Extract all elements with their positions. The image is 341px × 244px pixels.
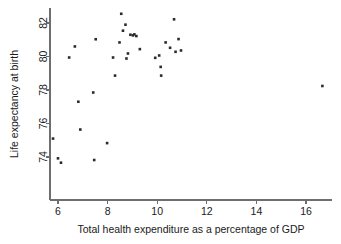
data-point	[68, 56, 71, 59]
data-point	[139, 48, 142, 51]
x-axis-title: Total health expenditure as a percentage…	[77, 223, 304, 235]
data-point	[74, 45, 77, 48]
data-point	[160, 74, 163, 77]
data-point	[94, 38, 97, 41]
y-tick-label-82: 82	[37, 17, 49, 29]
data-point	[173, 18, 176, 21]
y-axis-title: Life expectancy at birth	[8, 50, 20, 158]
data-point	[114, 74, 117, 77]
data-point	[158, 54, 161, 57]
data-point	[79, 128, 82, 131]
data-point	[112, 56, 115, 59]
data-point	[177, 38, 180, 41]
data-point	[125, 57, 128, 60]
chart-canvas: 74767880826810121416 Total health expend…	[0, 0, 341, 244]
scatter-plot-figure: 74767880826810121416 Total health expend…	[0, 0, 341, 244]
axes	[50, 8, 332, 200]
data-point	[106, 142, 109, 145]
data-point	[57, 157, 60, 160]
data-point	[118, 41, 121, 44]
x-tick-label-8: 8	[105, 205, 111, 217]
data-point	[122, 29, 125, 32]
data-point	[52, 137, 55, 140]
x-tick-label-12: 12	[201, 205, 213, 217]
data-point	[93, 159, 96, 162]
data-point	[180, 49, 183, 52]
data-point	[124, 23, 127, 26]
data-point	[129, 33, 132, 36]
x-tick-label-16: 16	[300, 205, 312, 217]
data-point	[159, 66, 162, 69]
data-point	[164, 41, 167, 44]
y-tick-label-74: 74	[37, 151, 49, 163]
x-tick-label-14: 14	[251, 205, 263, 217]
data-point	[127, 52, 130, 55]
axis-tick-labels: 74767880826810121416	[37, 17, 312, 217]
data-point	[120, 12, 123, 15]
data-points	[52, 12, 324, 164]
x-tick-label-10: 10	[151, 205, 163, 217]
data-point	[77, 100, 80, 103]
data-point	[154, 57, 157, 60]
y-tick-label-80: 80	[37, 51, 49, 63]
y-tick-label-78: 78	[37, 84, 49, 96]
data-point	[135, 35, 138, 38]
data-point	[169, 46, 172, 49]
data-point	[174, 51, 177, 54]
y-tick-label-76: 76	[37, 118, 49, 130]
axis-ticks	[46, 23, 306, 204]
data-point	[60, 161, 63, 164]
data-point	[321, 85, 324, 88]
data-point	[92, 91, 95, 94]
x-tick-label-6: 6	[55, 205, 61, 217]
